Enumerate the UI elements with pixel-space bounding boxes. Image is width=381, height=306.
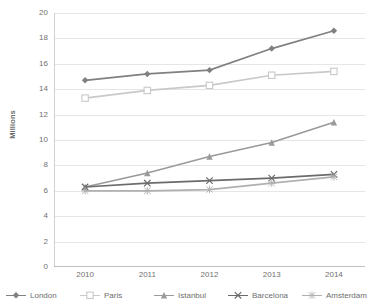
legend-marker-star-icon	[302, 290, 322, 300]
data-point-star	[268, 179, 276, 187]
legend-label: Paris	[104, 291, 122, 300]
data-point-square	[269, 72, 275, 78]
y-tick-label: 12	[4, 110, 48, 119]
data-point-square	[331, 68, 337, 74]
legend-marker-cross-icon	[228, 290, 248, 300]
legend-item-barcelona[interactable]: Barcelona	[228, 290, 302, 300]
data-point-diamond	[269, 45, 275, 51]
legend-label: London	[30, 291, 57, 300]
y-tick-label: 14	[4, 84, 48, 93]
x-tick-label: 2010	[60, 270, 110, 279]
data-point-star	[308, 292, 316, 300]
y-tick-label: 20	[4, 8, 48, 17]
legend-marker-triangle-icon	[154, 290, 174, 300]
data-point-diamond	[144, 71, 150, 77]
y-tick-label: 4	[4, 211, 48, 220]
legend-item-london[interactable]: London	[6, 290, 80, 300]
data-point-triangle	[161, 292, 167, 298]
legend-item-istanbul[interactable]: Istanbul	[154, 290, 228, 300]
data-point-star	[206, 186, 214, 194]
y-tick-label: 2	[4, 237, 48, 246]
series-istanbul	[82, 119, 337, 190]
legend-label: Istanbul	[178, 291, 206, 300]
y-tick-label: 10	[4, 135, 48, 144]
x-axis-tick-labels: 20102011201220132014	[54, 270, 365, 284]
legend-label: Amsterdam	[326, 291, 367, 300]
y-tick-label: 6	[4, 186, 48, 195]
data-point-cross	[235, 292, 241, 298]
data-point-square	[87, 292, 93, 298]
data-point-diamond	[82, 77, 88, 83]
legend-marker-diamond-icon	[6, 290, 26, 300]
legend-marker-square-icon	[80, 290, 100, 300]
legend-item-paris[interactable]: Paris	[80, 290, 154, 300]
y-axis-tick-labels: 02468101214161820	[0, 13, 48, 267]
data-point-diamond	[13, 292, 19, 298]
plot-area	[54, 13, 365, 267]
data-point-star	[144, 187, 152, 195]
data-point-square	[206, 82, 212, 88]
y-tick-label: 0	[4, 262, 48, 271]
y-tick-label: 16	[4, 59, 48, 68]
series-layer	[54, 13, 365, 267]
y-tick-label: 8	[4, 160, 48, 169]
data-point-star	[81, 187, 89, 195]
legend-item-amsterdam[interactable]: Amsterdam	[302, 290, 376, 300]
data-point-star	[330, 173, 338, 181]
line-chart: Millions 02468101214161820 2010201120122…	[0, 0, 381, 306]
data-point-square	[144, 87, 150, 93]
data-point-square	[82, 95, 88, 101]
x-tick-label: 2013	[247, 270, 297, 279]
y-tick-label: 18	[4, 33, 48, 42]
x-tick-label: 2014	[309, 270, 359, 279]
data-point-diamond	[331, 28, 337, 34]
legend-label: Barcelona	[252, 291, 288, 300]
x-tick-label: 2012	[185, 270, 235, 279]
chart-legend: LondonParisIstanbulBarcelonaAmsterdam	[6, 287, 378, 303]
series-london	[82, 28, 337, 84]
x-tick-label: 2011	[122, 270, 172, 279]
data-point-diamond	[206, 67, 212, 73]
